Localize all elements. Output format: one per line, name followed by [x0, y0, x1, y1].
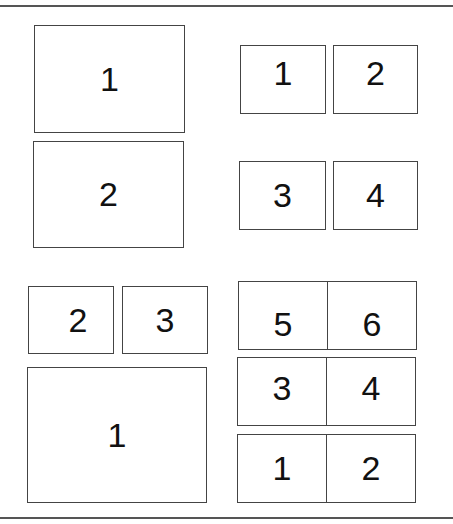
panel-number: 5	[274, 305, 293, 344]
bl-panel-1: 1	[27, 367, 207, 503]
panel-number: 4	[366, 176, 385, 215]
br-cell-5: 5	[239, 282, 328, 349]
br-cell-6: 6	[328, 282, 416, 349]
br-cell-1: 1	[238, 435, 327, 502]
br-cell-3: 3	[238, 358, 327, 425]
panel-number: 3	[273, 369, 292, 408]
panel-number: 3	[273, 176, 292, 215]
panel-number: 2	[69, 301, 88, 340]
tr-panel-2: 2	[333, 45, 418, 114]
panel-number: 1	[273, 449, 292, 488]
panel-number: 4	[362, 369, 381, 408]
panel-number: 1	[274, 54, 293, 93]
tr-panel-1: 1	[240, 45, 326, 114]
panel-number: 2	[366, 54, 385, 93]
panel-number: 6	[363, 305, 382, 344]
panel-number: 1	[100, 60, 119, 99]
tl-panel-2: 2	[33, 141, 184, 248]
panel-number: 3	[156, 301, 175, 340]
panel-number: 1	[108, 416, 127, 455]
br-row-2: 3 4	[237, 357, 416, 426]
bl-panel-3: 3	[122, 286, 208, 354]
br-cell-4: 4	[327, 358, 415, 425]
panel-number: 2	[99, 175, 118, 214]
tr-panel-4: 4	[333, 161, 418, 230]
panel-number: 2	[362, 449, 381, 488]
tl-panel-1: 1	[34, 25, 185, 133]
br-cell-2: 2	[327, 435, 415, 502]
top-rule	[0, 5, 453, 7]
br-row-3: 1 2	[237, 434, 416, 503]
br-row-1: 5 6	[238, 281, 417, 350]
bl-panel-2: 2	[28, 286, 114, 354]
tr-panel-3: 3	[239, 161, 326, 230]
bottom-rule	[0, 517, 453, 519]
